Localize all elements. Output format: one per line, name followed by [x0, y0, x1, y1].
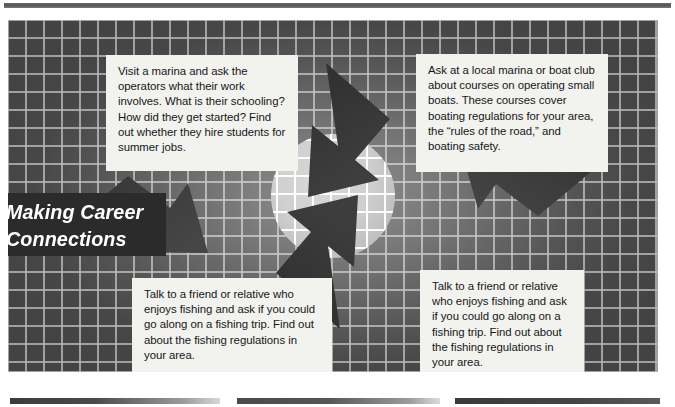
bottom-rule-center — [237, 398, 440, 404]
making-career-connections-banner: Making Career Connections — [8, 193, 166, 256]
career-connections-illustration: Visit a marina and ask the operators wha… — [8, 20, 658, 372]
bottom-rule-right — [455, 398, 660, 404]
arrow-top — [308, 63, 390, 197]
banner-line-2: Connections — [8, 225, 156, 252]
callout-bottom-right: Talk to a friend or relative who enjoys … — [420, 270, 584, 372]
callout-bottom-left: Talk to a friend or relative who enjoys … — [132, 278, 332, 372]
callout-top-left: Visit a marina and ask the operators wha… — [106, 55, 298, 171]
banner-line-1: Making Career — [8, 198, 156, 225]
bottom-rule-left — [10, 398, 220, 404]
illustration-bottom-margin — [8, 372, 658, 392]
top-divider-rule — [4, 3, 671, 8]
callout-top-right: Ask at a local marina or boat club about… — [416, 54, 608, 172]
